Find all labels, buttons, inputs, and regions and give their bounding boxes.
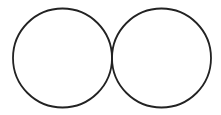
left-circle — [13, 9, 112, 108]
diagram-canvas — [0, 0, 221, 115]
right-circle — [112, 9, 211, 108]
